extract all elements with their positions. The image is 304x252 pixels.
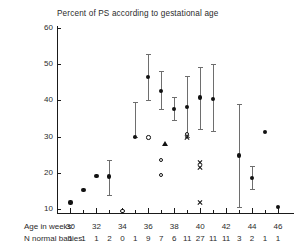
- error-bar-cap: [172, 97, 177, 98]
- error-bar-cap: [146, 54, 151, 55]
- x-tick-label: 32: [88, 222, 104, 231]
- y-tick: [57, 137, 61, 138]
- y-tick-label: 30: [31, 133, 53, 141]
- error-bar-cap: [107, 160, 112, 161]
- y-axis-line: [57, 26, 58, 214]
- data-point-filled-circle: [146, 75, 150, 79]
- x-tick-minor: [161, 210, 162, 213]
- error-bar-cap: [250, 166, 255, 167]
- x-tick-label: 44: [244, 222, 260, 231]
- error-bar-cap: [211, 131, 216, 132]
- x-axis-line: [57, 213, 294, 214]
- y-tick-label: 60: [31, 24, 53, 32]
- x-tick-major: [252, 208, 253, 213]
- y-tick: [57, 28, 61, 29]
- data-point-open-circle: [159, 158, 163, 162]
- error-bar-cap: [250, 189, 255, 190]
- data-point-open-circle: [146, 135, 150, 139]
- chart-title: Percent of PS according to gestational a…: [57, 9, 219, 18]
- chart-figure: Percent of PS according to gestational a…: [0, 0, 304, 252]
- data-point-filled-circle: [263, 130, 267, 134]
- y-tick-label: 50: [31, 60, 53, 68]
- x-tick-label: 36: [140, 222, 156, 231]
- n-normal-babies-value: 1: [270, 234, 286, 243]
- data-point-cross: [197, 164, 203, 170]
- data-point-open-circle: [159, 173, 163, 177]
- data-point-open-circle: [120, 209, 124, 213]
- x-tick-major: [70, 208, 71, 213]
- data-point-cross: [184, 134, 190, 140]
- error-bar-cap: [172, 120, 177, 121]
- data-point-filled-circle: [94, 174, 98, 178]
- error-bar-cap: [198, 67, 203, 68]
- data-point-filled-circle: [211, 97, 215, 101]
- error-bar-cap: [107, 195, 112, 196]
- error-bar-cap: [198, 129, 203, 130]
- x-tick-label: 34: [114, 222, 130, 231]
- data-point-filled-circle: [172, 107, 176, 111]
- data-point-filled-circle: [198, 95, 202, 99]
- data-point-filled-circle: [107, 174, 111, 178]
- error-bar-cap: [211, 64, 216, 65]
- y-tick-label: 20: [31, 169, 53, 177]
- x-tick-label: 46: [270, 222, 286, 231]
- x-tick-major: [174, 208, 175, 213]
- x-tick-minor: [265, 210, 266, 213]
- data-point-filled-circle: [237, 153, 241, 157]
- x-tick-minor: [213, 210, 214, 213]
- y-tick: [57, 209, 61, 210]
- x-tick-minor: [135, 210, 136, 213]
- data-point-filled-circle: [159, 89, 163, 93]
- x-tick-major: [148, 208, 149, 213]
- error-bar-cap: [237, 207, 242, 208]
- data-point-filled-circle: [133, 135, 137, 139]
- data-point-filled-circle: [81, 188, 85, 192]
- data-point-cross: [197, 199, 203, 205]
- x-tick-minor: [83, 210, 84, 213]
- x-tick-label: 38: [166, 222, 182, 231]
- y-tick: [57, 100, 61, 101]
- error-bar-cap: [146, 100, 151, 101]
- x-tick-label: 42: [218, 222, 234, 231]
- x-tick-major: [200, 208, 201, 213]
- error-bar-cap: [159, 71, 164, 72]
- error-bar-cap: [185, 76, 190, 77]
- error-bar-cap: [133, 102, 138, 103]
- error-bar: [135, 102, 136, 136]
- data-point-triangle: [162, 141, 168, 146]
- x-tick-minor: [187, 210, 188, 213]
- error-bar-cap: [159, 109, 164, 110]
- x-tick-minor: [109, 210, 110, 213]
- y-tick: [57, 173, 61, 174]
- data-point-filled-circle: [276, 205, 280, 209]
- y-tick: [57, 64, 61, 65]
- x-tick-major: [226, 208, 227, 213]
- data-point-filled-circle: [250, 176, 254, 180]
- x-tick-minor: [239, 210, 240, 213]
- y-tick-label: 40: [31, 96, 53, 104]
- y-tick-label: 10: [31, 205, 53, 213]
- error-bar-cap: [237, 104, 242, 105]
- data-point-filled-circle: [185, 105, 189, 109]
- x-tick-label: 30: [62, 222, 78, 231]
- data-point-filled-circle: [68, 200, 72, 204]
- x-tick-label: 40: [192, 222, 208, 231]
- x-tick-major: [96, 208, 97, 213]
